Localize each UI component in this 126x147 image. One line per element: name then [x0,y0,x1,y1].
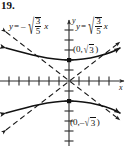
right-equation-denominator: 5 [95,26,102,36]
lower-branch [6,99,120,113]
lower-label-radicand: 3 [90,117,96,128]
lower-label-close-paren: ) [96,117,100,127]
right-equation-equals: = [80,21,87,31]
upper-branch [6,48,120,62]
upper-label-radical: √3 [83,43,95,54]
lower-vertex-dot [67,99,71,103]
x-axis-label: x [119,84,123,92]
radical-sign-icon: √ [85,118,90,127]
left-equation-fraction: 35 [35,17,42,36]
left-equation-numerator: 3 [35,17,42,26]
right-equation-radical: √35 [87,17,102,36]
left-equation-denominator: 5 [35,26,42,36]
radical-sign-icon: √ [88,19,94,34]
upper-vertex-dot [67,58,71,62]
upper-vertex-label: (0,√3) [73,43,98,54]
upper-label-close-paren: ) [94,44,98,54]
upper-label-radicand: 3 [89,44,95,55]
lower-label-radical: √3 [84,116,96,127]
right-equation-fraction: 35 [95,17,102,36]
radical-sign-icon: √ [84,45,89,54]
right-asymptote-equation: y=√35x [76,17,108,36]
right-equation-numerator: 3 [95,17,102,26]
left-asymptote-equation: y=–√35x [9,17,48,36]
left-equation-trailing-variable: x [41,21,48,31]
x-axis [0,77,124,86]
lower-vertex-label: (0,–√3) [70,116,100,127]
right-equation-trailing-variable: x [102,21,108,31]
figure-panel: 19. [0,0,126,147]
radical-sign-icon: √ [28,19,34,34]
left-equation-radical: √35 [27,17,42,36]
